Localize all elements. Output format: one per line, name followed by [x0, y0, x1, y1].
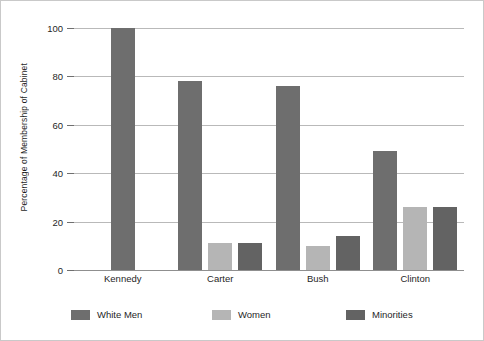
legend-item-minorities[interactable]: Minorities	[346, 309, 413, 320]
legend-item-white-men[interactable]: White Men	[71, 309, 142, 320]
y-tick-100	[67, 28, 74, 29]
y-tick-label-60: 60	[52, 119, 63, 130]
y-axis-title: Percentage of Membership of Cabinet	[17, 1, 31, 273]
x-axis-label-kennedy: Kennedy	[104, 273, 142, 284]
y-axis-title-text: Percentage of Membership of Cabinet	[19, 63, 29, 211]
x-axis-label-clinton: Clinton	[400, 273, 430, 284]
bar-clinton-women	[403, 207, 427, 270]
y-tick-label-40: 40	[52, 168, 63, 179]
y-tick-40	[67, 173, 74, 174]
bar-group-clinton	[367, 28, 465, 270]
legend-swatch-women	[212, 310, 231, 320]
legend-item-women[interactable]: Women	[212, 309, 271, 320]
bar-group-kennedy	[74, 28, 172, 270]
x-axis-label-carter: Carter	[207, 273, 233, 284]
bar-clinton-white-men	[373, 151, 397, 270]
y-tick-80	[67, 76, 74, 77]
bar-bush-women	[306, 246, 330, 270]
bar-bush-minorities	[336, 236, 360, 270]
bar-group-bush	[269, 28, 367, 270]
y-tick-label-80: 80	[52, 71, 63, 82]
bar-chart-figure: Percentage of Membership of Cabinet 0204…	[0, 0, 484, 341]
y-tick-label-100: 100	[47, 23, 63, 34]
x-axis-category-labels: KennedyCarterBushClinton	[74, 273, 464, 291]
y-tick-60	[67, 125, 74, 126]
legend-label-minorities: Minorities	[372, 309, 413, 320]
bar-carter-women	[208, 243, 232, 270]
legend-label-white-men: White Men	[97, 309, 142, 320]
y-tick-20	[67, 222, 74, 223]
plot-area: 020406080100	[74, 28, 464, 270]
y-tick-label-0: 0	[58, 265, 63, 276]
bar-bush-white-men	[276, 86, 300, 270]
bar-group-carter	[172, 28, 270, 270]
bar-carter-minorities	[238, 243, 262, 270]
legend-swatch-minorities	[346, 310, 365, 320]
bar-clinton-minorities	[433, 207, 457, 270]
bar-carter-white-men	[178, 81, 202, 270]
x-axis-label-bush: Bush	[307, 273, 329, 284]
legend-label-women: Women	[238, 309, 271, 320]
bar-kennedy-white-men	[111, 28, 135, 270]
legend-swatch-white-men	[71, 310, 90, 320]
gridline-0	[74, 270, 464, 271]
y-tick-0	[67, 270, 74, 271]
bars-layer	[74, 28, 464, 270]
y-tick-label-20: 20	[52, 216, 63, 227]
chart-legend: White MenWomenMinorities	[71, 309, 431, 325]
